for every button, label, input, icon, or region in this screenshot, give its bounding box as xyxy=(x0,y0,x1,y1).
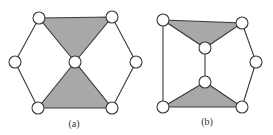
vertex-a2 xyxy=(106,11,118,23)
edge-a5-a7 xyxy=(112,62,136,108)
subfigure-b xyxy=(157,14,262,113)
shaded-triangle-a1 xyxy=(39,17,112,62)
vertex-b1 xyxy=(157,14,169,26)
vertex-a4 xyxy=(69,56,81,68)
vertex-b5 xyxy=(199,76,211,88)
edge-b4-b7 xyxy=(242,62,256,107)
vertex-b4 xyxy=(250,56,262,68)
subfigure-b-label: (b) xyxy=(201,116,213,128)
vertex-a6 xyxy=(32,102,44,114)
subfigure-a-label: (a) xyxy=(68,118,79,130)
graph-figure: (a) (b) xyxy=(0,0,273,135)
vertex-b7 xyxy=(236,101,248,113)
edge-a3-a6 xyxy=(15,62,38,108)
edge-a1-a3 xyxy=(15,18,39,62)
vertex-b6 xyxy=(157,101,169,113)
vertex-a3 xyxy=(9,56,21,68)
vertex-b2 xyxy=(236,17,248,29)
shaded-triangle-a2 xyxy=(38,62,112,108)
edge-a2-a5 xyxy=(112,17,136,62)
vertex-a5 xyxy=(130,56,142,68)
vertex-a1 xyxy=(33,12,45,24)
vertex-a7 xyxy=(106,102,118,114)
subfigure-a xyxy=(9,11,142,114)
vertex-b3 xyxy=(199,42,211,54)
